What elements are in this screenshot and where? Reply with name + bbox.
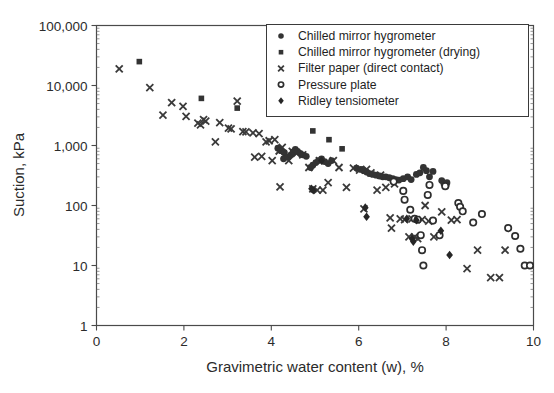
suction-vs-water-content-chart: 02468101101001,00010,000100,000 Gravimet… bbox=[0, 0, 554, 393]
legend-label: Chilled mirror hygrometer bbox=[298, 29, 435, 43]
data-point-filled-circle bbox=[328, 157, 335, 164]
data-point-open-circle bbox=[426, 182, 432, 188]
legend-marker-open-circle bbox=[278, 82, 283, 87]
data-point-open-circle bbox=[430, 217, 436, 223]
data-point-open-circle bbox=[512, 233, 518, 239]
legend-label: Pressure plate bbox=[298, 78, 377, 92]
legend-label: Filter paper (direct contact) bbox=[298, 61, 444, 75]
y-tick-label: 1 bbox=[80, 319, 88, 334]
y-axis-title: Suction, kPa bbox=[10, 132, 27, 217]
data-point-open-circle bbox=[407, 207, 413, 213]
data-point-filled-square bbox=[339, 146, 345, 152]
data-point-open-circle bbox=[479, 211, 485, 217]
data-point-filled-square bbox=[326, 137, 332, 143]
x-axis-title: Gravimetric water content (w), % bbox=[206, 358, 424, 375]
data-point-open-circle bbox=[460, 208, 466, 214]
data-point-open-circle bbox=[470, 219, 476, 225]
data-point-filled-circle bbox=[430, 168, 437, 175]
x-tick-label: 0 bbox=[93, 334, 101, 349]
legend: Chilled mirror hygrometerChilled mirror … bbox=[267, 25, 529, 117]
data-point-open-circle bbox=[527, 262, 533, 268]
legend-marker-filled-square bbox=[279, 50, 284, 55]
legend-marker-filled-circle bbox=[278, 33, 284, 39]
y-tick-label: 10,000 bbox=[46, 79, 87, 94]
legend-label: Chilled mirror hygrometer (drying) bbox=[298, 45, 480, 59]
x-tick-label: 2 bbox=[180, 334, 188, 349]
data-point-open-circle bbox=[442, 183, 448, 189]
data-point-filled-circle bbox=[423, 167, 430, 174]
data-point-open-circle bbox=[401, 196, 407, 202]
y-tick-label: 100 bbox=[65, 199, 88, 214]
x-tick-label: 6 bbox=[355, 334, 363, 349]
data-point-open-circle bbox=[418, 232, 424, 238]
data-point-open-circle bbox=[400, 188, 406, 194]
data-point-open-circle bbox=[419, 247, 425, 253]
data-point-open-circle bbox=[390, 178, 396, 184]
data-point-open-circle bbox=[517, 246, 523, 252]
data-point-filled-square bbox=[310, 128, 316, 134]
data-point-open-circle bbox=[505, 225, 511, 231]
data-point-open-circle bbox=[425, 192, 431, 198]
data-point-filled-square bbox=[234, 105, 240, 111]
data-point-open-circle bbox=[420, 262, 426, 268]
y-tick-label: 10 bbox=[72, 259, 87, 274]
y-tick-label: 1,000 bbox=[54, 139, 88, 154]
x-tick-label: 8 bbox=[442, 334, 450, 349]
data-point-filled-circle bbox=[408, 176, 415, 183]
y-tick-label: 100,000 bbox=[39, 19, 88, 34]
data-point-filled-square bbox=[199, 96, 205, 102]
data-point-filled-circle bbox=[303, 153, 310, 160]
x-tick-label: 4 bbox=[268, 334, 276, 349]
x-tick-label: 10 bbox=[526, 334, 541, 349]
data-point-filled-square bbox=[137, 59, 143, 65]
legend-label: Ridley tensiometer bbox=[298, 94, 399, 108]
